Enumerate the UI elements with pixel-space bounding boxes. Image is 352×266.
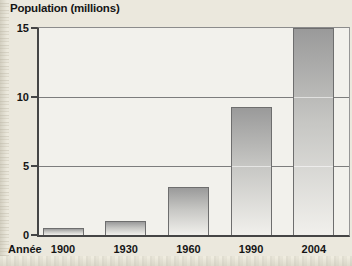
bar-1900: [43, 228, 84, 235]
gridline-over-bar: [294, 166, 333, 167]
plot-area: [37, 27, 350, 237]
gridline-over-bar: [294, 97, 333, 98]
page-bottom-edge-texture: [0, 256, 352, 266]
y-tick-mark-15: [31, 27, 37, 29]
bar-1960: [168, 187, 209, 235]
x-tick-label-1930: 1930: [113, 243, 137, 255]
y-tick-label-0: 0: [3, 229, 29, 241]
x-axis-title: Année: [8, 243, 42, 255]
x-tick-label-1900: 1900: [51, 243, 75, 255]
x-tick-label-1960: 1960: [176, 243, 200, 255]
bar-1930: [105, 221, 146, 235]
gridline-over-bar: [232, 166, 271, 167]
y-tick-label-10: 10: [3, 91, 29, 103]
bar-1990: [231, 107, 272, 235]
y-tick-mark-5: [31, 165, 37, 167]
scanned-chart-page: Population (millions) 051015 Année 19001…: [0, 0, 352, 266]
y-axis-title: Population (millions): [10, 2, 120, 14]
y-tick-mark-0: [31, 234, 37, 236]
page-left-edge-texture: [0, 0, 9, 266]
y-tick-mark-10: [31, 96, 37, 98]
y-tick-label-5: 5: [3, 160, 29, 172]
x-tick-label-1990: 1990: [239, 243, 263, 255]
y-tick-label-15: 15: [3, 22, 29, 34]
x-tick-label-2004: 2004: [302, 243, 326, 255]
bar-2004: [293, 28, 334, 235]
